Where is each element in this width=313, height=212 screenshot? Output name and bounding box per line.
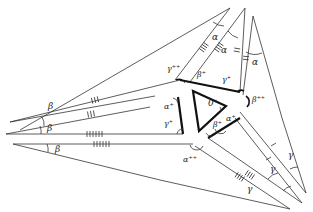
alpha-top-1-label: α: [212, 32, 218, 42]
tick-marks: [87, 42, 276, 181]
upper-spoke-group: [20, 8, 282, 130]
beta-p-bottom-label: β⁺: [212, 120, 222, 129]
gamma-right-1-label: γ: [288, 150, 294, 160]
left-edge-6: [13, 144, 160, 180]
beta-left-3-label: β: [54, 144, 60, 154]
beta-p-top-label: β⁺: [196, 70, 206, 79]
lower-right-edge-4: [235, 118, 302, 203]
gamma-p-top-label: γ⁺: [222, 75, 231, 84]
beta-left-2-label: β: [46, 123, 52, 133]
alpha-top-3-label: α: [252, 57, 258, 67]
gamma-p-left-label: γ⁺: [164, 119, 173, 128]
alpha-p-left-label: α⁺: [164, 102, 174, 111]
alpha-pp-label: α⁺⁺: [183, 155, 197, 164]
gamma-right-2-label: γ: [270, 164, 276, 174]
left-edge-2: [10, 96, 155, 122]
geometry-diagram: α α α β β β γ γ γ γ⁺⁺ β⁺⁺ α⁺⁺ β⁺ γ⁺ α⁺ γ…: [0, 0, 313, 212]
alpha-p-bottom-label: α⁺: [226, 114, 236, 123]
gamma-pp-label: γ⁺⁺: [167, 64, 180, 73]
center-label: 0⁺: [208, 98, 219, 108]
lower-right-edge-1: [160, 180, 290, 209]
beta-pp-label: β⁺⁺: [251, 95, 265, 104]
alpha-top-2-label: α: [221, 45, 227, 55]
left-edge-3: [6, 107, 150, 134]
lower-right-edge-5: [240, 112, 306, 193]
thick-left-edge: [178, 97, 183, 134]
gamma-right-3-label: γ: [247, 184, 253, 194]
central-triangle-group: [178, 80, 240, 138]
angle-labels: α α α β β β γ γ γ γ⁺⁺ β⁺⁺ α⁺⁺ β⁺ γ⁺ α⁺ γ…: [46, 32, 294, 194]
beta-left-1-label: β: [47, 101, 53, 111]
left-spoke-group: [6, 80, 193, 180]
